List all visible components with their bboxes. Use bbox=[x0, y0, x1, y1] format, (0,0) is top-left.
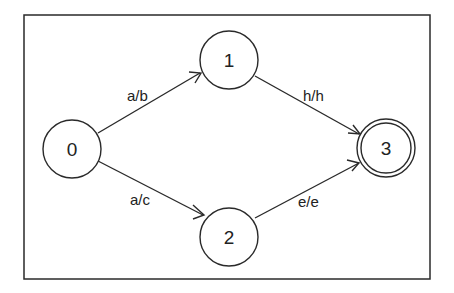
state-label-0: 0 bbox=[67, 139, 78, 160]
edge-2-3: e/e bbox=[255, 160, 359, 218]
state-label-3: 3 bbox=[381, 138, 392, 159]
edge-1-3: h/h bbox=[255, 76, 360, 134]
state-node-2: 2 bbox=[200, 208, 258, 266]
edge-0-2: a/c bbox=[98, 161, 204, 219]
edge-label-e-e: e/e bbox=[298, 193, 319, 210]
state-label-1: 1 bbox=[224, 50, 235, 71]
edge-0-1: a/b bbox=[98, 72, 201, 133]
state-node-0: 0 bbox=[43, 120, 101, 178]
edge-label-h-h: h/h bbox=[303, 87, 324, 104]
state-label-2: 2 bbox=[224, 227, 235, 248]
edge-label-a-b: a/b bbox=[127, 87, 148, 104]
state-node-1: 1 bbox=[200, 31, 258, 89]
fst-diagram: a/b a/c h/h e/e 0 1 2 3 bbox=[0, 0, 454, 293]
state-node-3-accepting: 3 bbox=[357, 119, 415, 177]
edge-label-a-c: a/c bbox=[130, 191, 151, 208]
